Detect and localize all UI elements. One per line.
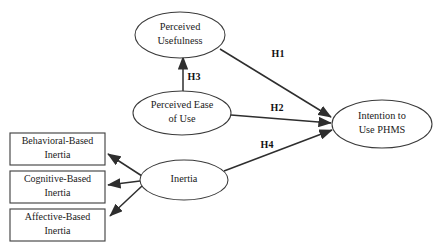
affective-based-inertia-label-line2: Inertia: [44, 225, 71, 236]
edge-h1-label: H1: [272, 48, 285, 59]
edge-inertia-to-affective: [110, 186, 142, 216]
node-behavioral-based-inertia[interactable]: Behavioral-Based Inertia: [10, 133, 105, 165]
perceived-usefulness-label-line1: Perceived: [160, 21, 201, 32]
behavioral-based-inertia-label-line1: Behavioral-Based: [22, 135, 94, 146]
model-diagram-canvas: H1 H2 H3 H4 Perceived Usefulness: [0, 0, 435, 250]
node-intention-to-use-phms[interactable]: Intention to Use PHMS: [332, 100, 432, 148]
edge-h4-label: H4: [261, 139, 274, 150]
perceived-ease-of-use-label-line1: Perceived Ease: [151, 99, 214, 110]
edge-inertia-to-behavioral: [108, 154, 142, 176]
affective-based-inertia-label-line1: Affective-Based: [25, 211, 90, 222]
cognitive-based-inertia-label-line2: Inertia: [44, 187, 71, 198]
inertia-label-line1: Inertia: [171, 173, 198, 184]
node-inertia[interactable]: Inertia: [140, 160, 228, 200]
edge-h3-label: H3: [188, 71, 201, 82]
edge-h2-line: [231, 115, 331, 123]
edge-inertia-to-cognitive: [108, 181, 140, 185]
cognitive-based-inertia-label-line1: Cognitive-Based: [24, 173, 91, 184]
node-perceived-ease-of-use[interactable]: Perceived Ease of Use: [133, 91, 231, 135]
edge-h3: H3: [183, 57, 200, 92]
behavioral-based-inertia-label-line2: Inertia: [44, 149, 71, 160]
edge-h2-label: H2: [271, 102, 284, 113]
perceived-usefulness-label-line2: Usefulness: [157, 35, 202, 46]
model-diagram: H1 H2 H3 H4 Perceived Usefulness: [0, 0, 435, 250]
node-cognitive-based-inertia[interactable]: Cognitive-Based Inertia: [10, 171, 105, 203]
intention-to-use-label-line2: Use PHMS: [359, 124, 406, 135]
edge-h4-line: [224, 130, 332, 171]
perceived-ease-of-use-label-line2: of Use: [168, 113, 196, 124]
edge-h4: H4: [224, 130, 332, 171]
edge-h2: H2: [231, 102, 331, 123]
node-affective-based-inertia[interactable]: Affective-Based Inertia: [10, 209, 105, 241]
node-perceived-usefulness[interactable]: Perceived Usefulness: [135, 12, 225, 58]
intention-to-use-label-line1: Intention to: [358, 110, 406, 121]
